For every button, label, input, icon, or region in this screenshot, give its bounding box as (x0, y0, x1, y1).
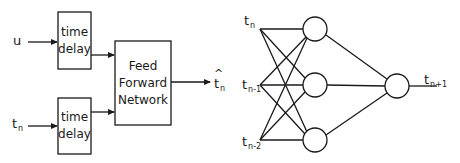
nn-output-label-tn+1: tn+1 (424, 73, 447, 89)
network-label: Feed Forward Network (115, 41, 171, 125)
hidden-neuron-1 (303, 17, 327, 41)
output-neuron (385, 74, 409, 98)
input-label-tn: tn (12, 117, 23, 133)
time-delay-label-bottom: time delay (58, 98, 91, 154)
output-label-tn-hat: tn (214, 77, 225, 93)
time-delay-label-top: time delay (58, 12, 91, 69)
input-hidden-connections (260, 29, 307, 140)
hidden-output-connections (326, 35, 387, 135)
nn-input-label-tn-2: tn-2 (242, 135, 261, 151)
hidden-neuron-3 (303, 128, 327, 152)
nn-input-label-tn-1: tn-1 (242, 78, 261, 94)
input-label-u: u (13, 34, 21, 47)
hidden-neuron-2 (303, 73, 327, 97)
nn-input-label-tn: tn (244, 14, 255, 30)
